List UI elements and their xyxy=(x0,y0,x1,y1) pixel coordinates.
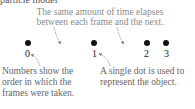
frame-dot-3 xyxy=(163,40,169,46)
single-dot-caption: A single dot is used to represent the ob… xyxy=(100,66,195,88)
frame-dot-2 xyxy=(144,40,150,46)
frame-number-1: 1 xyxy=(92,48,97,59)
frame-order-caption: Numbers show the order in which the fram… xyxy=(2,66,82,99)
frame-dot-0 xyxy=(25,40,31,46)
frame-dot-1 xyxy=(91,40,97,46)
frame-number-2: 2 xyxy=(144,48,149,59)
frame-number-3: 3 xyxy=(164,48,169,59)
frame-number-0: 0 xyxy=(25,48,30,59)
